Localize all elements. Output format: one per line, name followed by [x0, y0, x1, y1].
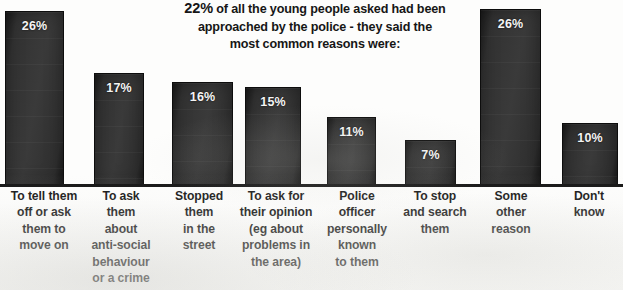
category-label-line: Don't: [556, 188, 622, 204]
headline-line-1: 22% of all the young people asked had be…: [150, 0, 480, 19]
category-label-line: to them: [318, 254, 396, 270]
bar: 26%: [5, 11, 64, 186]
category-label-line: the area): [233, 254, 319, 270]
category-label: Stoppedthemin thestreet: [163, 188, 235, 254]
bar-value-label: 17%: [95, 81, 143, 95]
category-label-line: them: [395, 221, 475, 237]
category-label: Someotherreason: [477, 188, 545, 237]
category-label: To askthemaboutanti-socialbehaviouror a …: [84, 188, 158, 286]
category-label-line: them: [163, 204, 235, 220]
category-label-line: Stopped: [163, 188, 235, 204]
category-label-line: To ask for: [233, 188, 319, 204]
bar: 15%: [245, 87, 301, 186]
bar-value-label: 26%: [6, 19, 63, 33]
category-label-line: Police: [318, 188, 396, 204]
bar-value-label: 16%: [173, 90, 232, 104]
headline-line-3: most common reasons were:: [150, 36, 480, 54]
category-label-line: behaviour: [84, 254, 158, 270]
headline-lead-percent: 22%: [184, 0, 213, 16]
category-label-line: or a crime: [84, 270, 158, 286]
category-label-line: their opinion: [233, 204, 319, 220]
category-label-line: and search: [395, 204, 475, 220]
bar-value-label: 26%: [481, 17, 540, 31]
category-label-line: To stop: [395, 188, 475, 204]
bar: 26%: [480, 9, 541, 186]
category-label-line: them: [84, 204, 158, 220]
bar: 16%: [172, 82, 233, 186]
category-label-line: problems in: [233, 237, 319, 253]
bar-value-label: 10%: [563, 131, 617, 145]
category-label-line: To tell them: [0, 188, 88, 204]
category-label-line: street: [163, 237, 235, 253]
headline-line-1-rest: of all the young people asked had been: [213, 2, 446, 16]
category-label-line: know: [556, 204, 622, 220]
category-label: To ask fortheir opinion(eg aboutproblems…: [233, 188, 319, 270]
category-label-line: off or ask: [0, 204, 88, 220]
category-label-line: Some: [477, 188, 545, 204]
category-label-line: known: [318, 237, 396, 253]
bar: 17%: [94, 73, 144, 186]
category-label-line: personally: [318, 221, 396, 237]
bar-chart-figure: of the young people 22% of all the young…: [0, 0, 623, 290]
headline-line-2: approached by the police - they said the: [150, 19, 480, 37]
category-label: Don'tknow: [556, 188, 622, 221]
chart-headline: of the young people 22% of all the young…: [150, 0, 480, 54]
bar: 10%: [562, 123, 618, 186]
category-label-line: anti-social: [84, 237, 158, 253]
category-label: To tell themoff or askthem tomove on: [0, 188, 88, 254]
bar-value-label: 15%: [246, 95, 300, 109]
bar: 7%: [405, 140, 456, 186]
category-label-line: officer: [318, 204, 396, 220]
category-label-line: about: [84, 221, 158, 237]
category-label: To stopand searchthem: [395, 188, 475, 237]
category-label-line: other: [477, 204, 545, 220]
category-label-line: them to: [0, 221, 88, 237]
bar: 11%: [327, 117, 376, 186]
category-label-line: (eg about: [233, 221, 319, 237]
category-label-line: To ask: [84, 188, 158, 204]
category-label-line: reason: [477, 221, 545, 237]
category-label: Policeofficerpersonallyknownto them: [318, 188, 396, 270]
bar-value-label: 7%: [406, 148, 455, 162]
category-label-line: move on: [0, 237, 88, 253]
bar-value-label: 11%: [328, 125, 375, 139]
category-label-line: in the: [163, 221, 235, 237]
category-label-row: To tell themoff or askthem tomove onTo a…: [0, 188, 623, 290]
x-axis-baseline: [0, 184, 623, 187]
